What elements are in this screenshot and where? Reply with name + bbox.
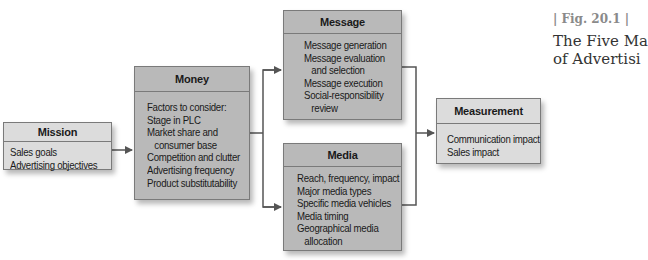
list-item: Competition and clutter <box>147 151 241 164</box>
list-item: Reach, frequency, impact <box>297 172 393 185</box>
list-item: Major media types <box>297 185 393 198</box>
list-item: and selection <box>304 64 393 77</box>
mission-items: Sales goals Advertising objectives <box>4 142 111 171</box>
list-item: Social-responsibility <box>304 89 393 102</box>
list-item: consumer base <box>147 139 241 152</box>
list-item: Advertising frequency <box>147 164 241 177</box>
figure-title-line-2: of Advertisi <box>553 50 648 68</box>
mission-box: Mission Sales goals Advertising objectiv… <box>3 122 112 170</box>
list-item: Message evaluation <box>304 52 393 65</box>
message-box: Message Message generation Message evalu… <box>283 10 402 120</box>
list-item: Media timing <box>297 210 393 223</box>
media-title: Media <box>284 144 401 167</box>
list-item: review <box>304 102 393 115</box>
measurement-title: Measurement <box>437 99 540 124</box>
list-item: Factors to consider: <box>147 101 241 114</box>
money-items: Factors to consider: Stage in PLC Market… <box>135 92 249 189</box>
mission-title: Mission <box>4 123 111 142</box>
list-item: Geographical media <box>297 222 393 235</box>
list-item: Sales goals <box>10 146 103 159</box>
list-item: Sales impact <box>447 146 533 159</box>
list-item: Advertising objectives <box>10 159 103 172</box>
message-title: Message <box>284 11 401 34</box>
media-items: Reach, frequency, impact Major media typ… <box>284 167 401 248</box>
figure-title-line-1: The Five Ma <box>553 32 648 50</box>
list-item: Product substitutability <box>147 177 241 190</box>
list-item: Market share and <box>147 126 241 139</box>
figure-label: | Fig. 20.1 | <box>553 12 629 26</box>
money-title: Money <box>135 67 249 92</box>
media-box: Media Reach, frequency, impact Major med… <box>283 143 402 251</box>
list-item: Stage in PLC <box>147 114 241 127</box>
measurement-box: Measurement Communication impact Sales i… <box>436 98 541 164</box>
list-item: allocation <box>297 235 393 248</box>
measurement-items: Communication impact Sales impact <box>437 124 540 158</box>
list-item: Message execution <box>304 77 393 90</box>
list-item: Communication impact <box>447 133 533 146</box>
figure-title: The Five Ma of Advertisi <box>553 32 648 68</box>
money-box: Money Factors to consider: Stage in PLC … <box>134 66 250 200</box>
message-items: Message generation Message evaluation an… <box>284 34 401 115</box>
list-item: Message generation <box>304 39 393 52</box>
list-item: Specific media vehicles <box>297 197 393 210</box>
